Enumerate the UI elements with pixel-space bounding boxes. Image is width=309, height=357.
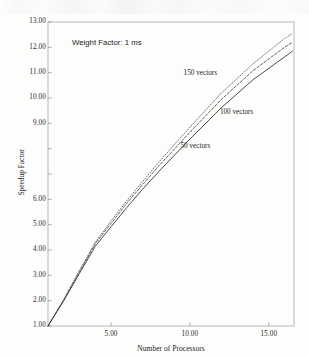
x-axis-title: Number of Processors [48, 344, 294, 353]
y-axis-tick-label: 4.00 [10, 245, 46, 253]
series-line-50-vectors [48, 51, 292, 326]
y-axis-tick-label: 2.00 [10, 296, 46, 304]
y-axis-tick-label: 13.00 [10, 17, 46, 25]
y-axis-ticks [48, 22, 52, 326]
x-axis-ticks [111, 323, 269, 327]
y-axis-tick-label: 6.00 [10, 195, 46, 203]
series-label-150-vectors: 150 vectors [184, 69, 217, 77]
y-axis-tick-label: 10.00 [10, 93, 46, 101]
chart-page: 1.002.003.004.005.006.009.0010.0011.0012… [0, 0, 309, 357]
x-axis-tick-label: 5.00 [93, 330, 129, 338]
x-axis-tick-label: 10.00 [172, 330, 208, 338]
series-layer [48, 33, 292, 326]
y-axis-tick-label: 5.00 [10, 220, 46, 228]
y-axis-title: Speedup Factor [17, 138, 26, 208]
y-axis-tick-label: 1.00 [10, 321, 46, 329]
x-axis-tick-label: 15.00 [251, 330, 287, 338]
y-axis-tick-label: 9.00 [10, 119, 46, 127]
y-axis-tick-label: 11.00 [10, 68, 46, 76]
series-line-100-vectors [48, 42, 292, 326]
y-axis-tick-label: 12.00 [10, 43, 46, 51]
series-label-50-vectors: 50 vectors [181, 142, 211, 150]
series-label-100-vectors: 100 vectors [220, 108, 253, 116]
y-axis-tick-label: 3.00 [10, 271, 46, 279]
weight-factor-annotation: Weight Factor: 1 ms [72, 38, 142, 47]
speedup-line-chart [0, 0, 309, 357]
